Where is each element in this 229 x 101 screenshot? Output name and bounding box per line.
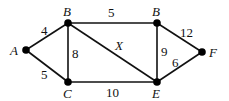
weight-B-B: 5	[108, 5, 115, 20]
node-A	[22, 46, 30, 54]
node-B-left	[64, 19, 72, 27]
weighted-graph-diagram: A B C B E F 4 5 8 5 X 10 9 12 6	[0, 0, 229, 101]
weight-E-F: 6	[172, 55, 179, 70]
weight-B-E: 9	[161, 44, 168, 59]
node-label-E: E	[151, 86, 160, 101]
weight-B-C: 8	[72, 46, 79, 61]
weight-A-C: 5	[41, 67, 48, 82]
node-label-B-right: B	[152, 4, 160, 19]
node-label-C: C	[63, 86, 72, 101]
node-E	[153, 78, 161, 86]
node-C	[64, 78, 72, 86]
node-F	[198, 48, 206, 56]
node-label-A: A	[9, 43, 18, 58]
node-B-right	[153, 19, 161, 27]
weight-B-E-x: X	[114, 38, 124, 53]
weight-A-B: 4	[41, 23, 48, 38]
weight-B-F: 12	[180, 25, 193, 40]
node-label-B-left: B	[63, 4, 71, 19]
weight-C-E: 10	[106, 85, 119, 100]
edge-B-E	[68, 23, 157, 82]
node-label-F: F	[208, 45, 218, 60]
